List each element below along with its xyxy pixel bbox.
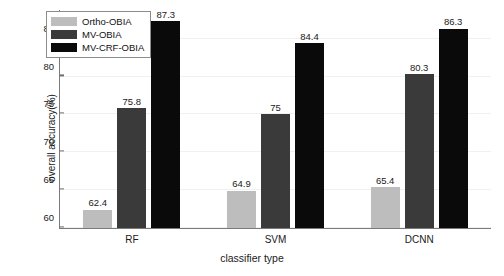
bar-value-label: 62.4 <box>89 198 108 208</box>
y-axis-tick-label: 70 <box>43 136 60 147</box>
bar-value-label: 86.3 <box>444 17 463 27</box>
bar-value-label: 87.3 <box>157 10 176 20</box>
legend-item[interactable]: MV-CRF-OBIA <box>51 41 144 54</box>
bar-chart-figure: overall accuracy(%) 60657075808562.475.8… <box>0 0 504 276</box>
y-axis-tick-mark <box>60 151 64 152</box>
legend-label-mv-obia: MV-OBIA <box>82 30 122 40</box>
y-axis-tick-mark <box>60 75 64 76</box>
y-axis-tick-label: 75 <box>43 98 60 109</box>
legend-swatch-ortho-obia <box>51 17 77 26</box>
legend-swatch-mv-crf-obia <box>51 43 77 52</box>
y-axis-tick-mark <box>60 113 64 114</box>
legend-label-mv-crf-obia: MV-CRF-OBIA <box>82 43 144 53</box>
bar[interactable]: 65.4 <box>371 187 400 228</box>
legend-item[interactable]: Ortho-OBIA <box>51 15 144 28</box>
bar[interactable]: 86.3 <box>439 29 468 228</box>
legend-label-ortho-obia: Ortho-OBIA <box>82 17 132 27</box>
x-axis-tick-label: SVM <box>265 234 287 245</box>
y-axis-tick-label: 60 <box>43 212 60 223</box>
bar-value-label: 84.4 <box>300 32 319 42</box>
bar-value-label: 65.4 <box>376 176 395 186</box>
bar-value-label: 64.9 <box>232 179 251 189</box>
x-axis-title: classifier type <box>0 252 504 264</box>
x-axis-tick-label: RF <box>125 234 138 245</box>
chart-legend: Ortho-OBIA MV-OBIA MV-CRF-OBIA <box>46 11 151 58</box>
y-axis-tick-mark <box>60 226 64 227</box>
x-axis-tick-label: DCNN <box>405 234 434 245</box>
bar[interactable]: 75.8 <box>117 108 146 228</box>
bar[interactable]: 80.3 <box>405 74 434 228</box>
y-axis-tick-mark <box>60 188 64 189</box>
y-axis-tick-label: 80 <box>43 60 60 71</box>
bar-value-label: 75 <box>270 103 281 113</box>
legend-swatch-mv-obia <box>51 30 77 39</box>
bar[interactable]: 64.9 <box>227 191 256 228</box>
bar[interactable]: 87.3 <box>151 21 180 228</box>
bar[interactable]: 62.4 <box>83 210 112 228</box>
legend-item[interactable]: MV-OBIA <box>51 28 144 41</box>
bar-value-label: 80.3 <box>410 63 429 73</box>
bar[interactable]: 84.4 <box>295 43 324 228</box>
bar[interactable]: 75 <box>261 114 290 228</box>
bar-value-label: 75.8 <box>123 97 142 107</box>
y-axis-tick-label: 65 <box>43 174 60 185</box>
